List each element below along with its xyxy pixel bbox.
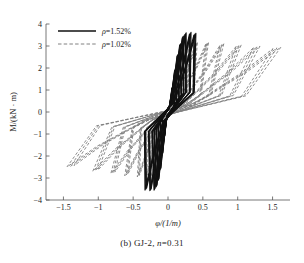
axes-layer: −4−3−2−101234−1.5−1−0.500.511.5φ/(1/m)M/… <box>8 20 290 228</box>
hysteresis-chart: −4−3−2−101234−1.5−1−0.500.511.5φ/(1/m)M/… <box>0 0 304 240</box>
x-tick-label: −1.5 <box>56 203 71 212</box>
caption-suffix: =0.31 <box>162 238 184 248</box>
y-tick-label: 1 <box>38 86 42 95</box>
x-tick-label: −0.5 <box>126 203 141 212</box>
figure-caption: (b) GJ-2, n=0.31 <box>0 238 304 248</box>
y-tick-label: −1 <box>33 130 42 139</box>
x-tick-label: −1 <box>94 203 103 212</box>
legend-label: ρ=1.02% <box>101 40 131 49</box>
y-tick-label: 3 <box>38 42 42 51</box>
y-tick-label: 2 <box>38 64 42 73</box>
x-tick-label: 0 <box>166 203 170 212</box>
x-tick-label: 0.5 <box>198 203 208 212</box>
figure-container: −4−3−2−101234−1.5−1−0.500.511.5φ/(1/m)M/… <box>0 0 304 263</box>
y-tick-label: −2 <box>33 152 42 161</box>
data-series-layer <box>67 32 281 190</box>
x-axis-label: φ/(1/m) <box>155 218 181 228</box>
caption-prefix: (b) GJ-2, <box>120 238 157 248</box>
chart-legend: ρ=1.52%ρ=1.02% <box>58 27 131 49</box>
legend-label: ρ=1.52% <box>101 27 131 36</box>
y-tick-label: −3 <box>33 174 42 183</box>
y-tick-label: 0 <box>38 108 42 117</box>
y-tick-label: 4 <box>38 20 42 29</box>
y-tick-label: −4 <box>33 196 42 205</box>
x-tick-label: 1 <box>236 203 240 212</box>
y-axis-label: M/(kN · m) <box>8 92 18 132</box>
x-tick-label: 1.5 <box>268 203 278 212</box>
